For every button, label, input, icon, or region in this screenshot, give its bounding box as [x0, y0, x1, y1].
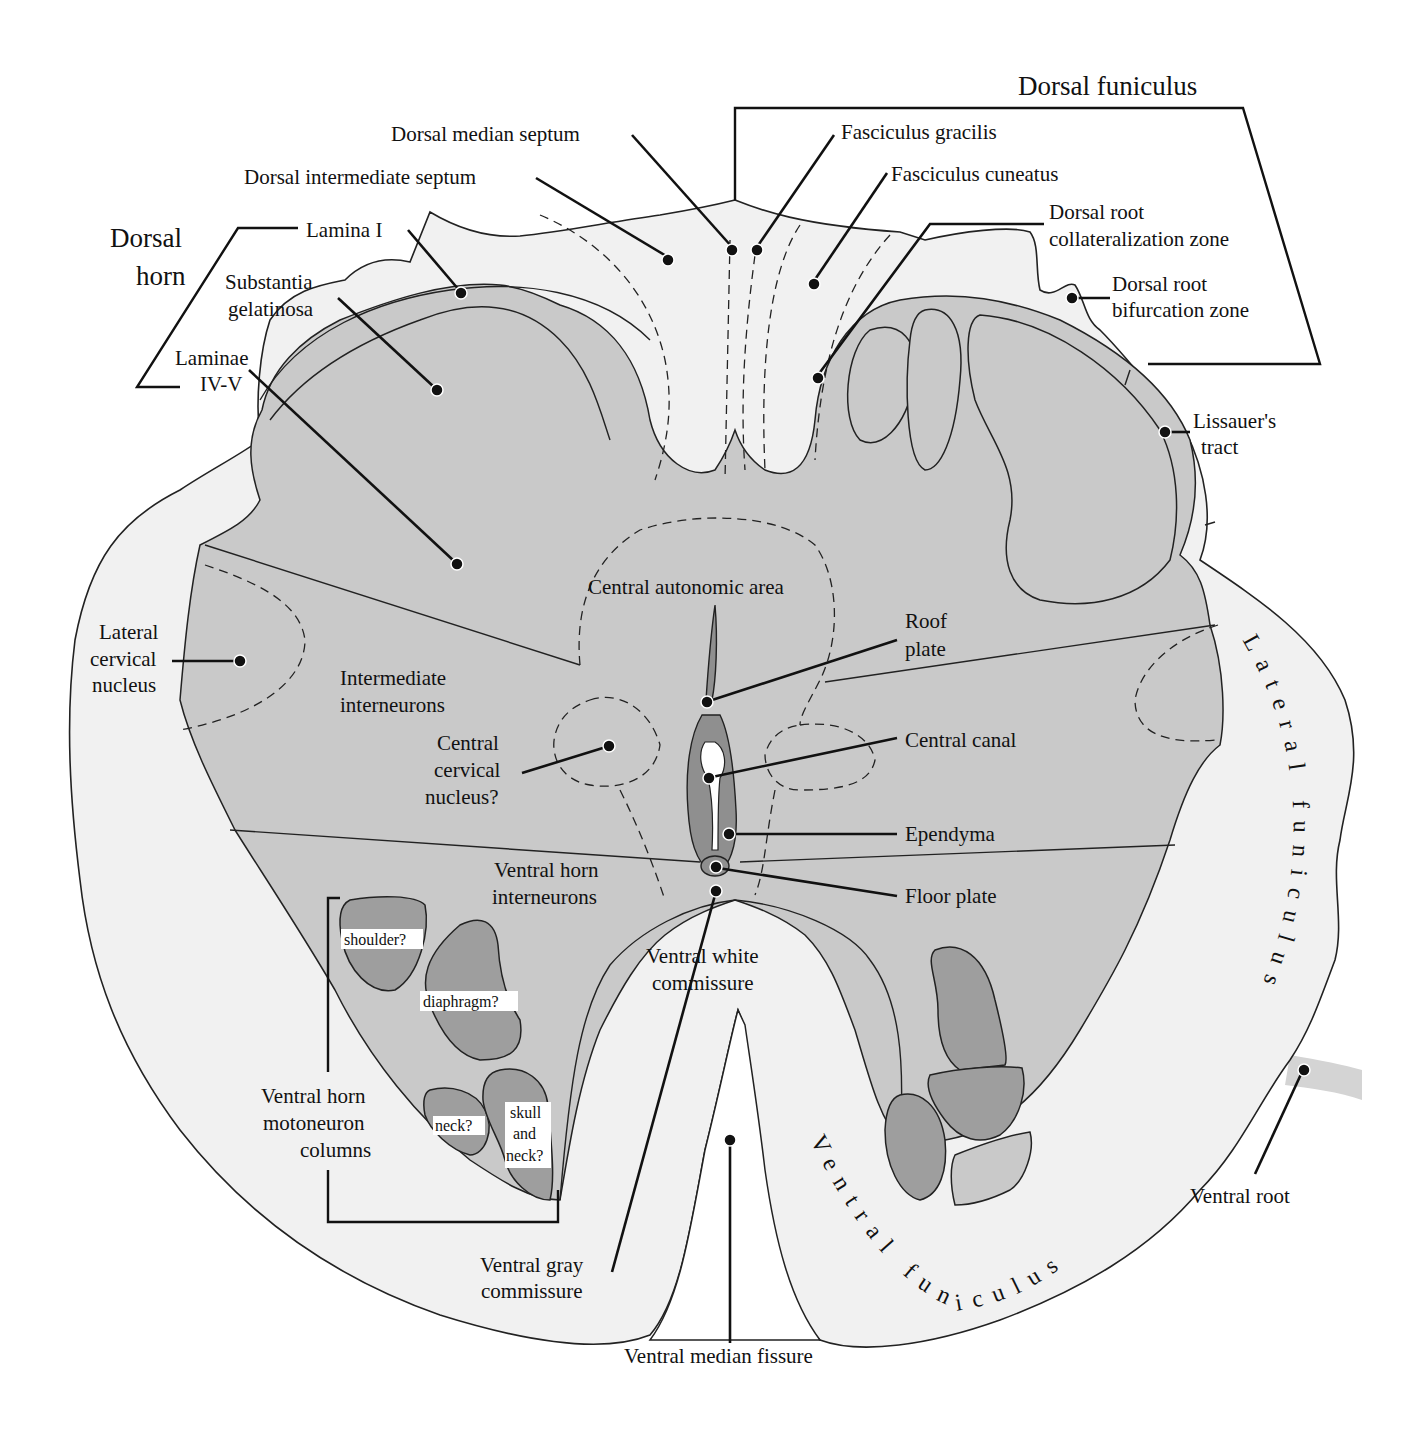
central-cervical-nucleus-label-line1: Central: [437, 731, 499, 755]
ventral-horn-interneurons-label-line2: interneurons: [492, 885, 597, 909]
motoneuron-columns-label-line1: Ventral horn: [261, 1084, 366, 1108]
intermediate-interneurons-label-line2: interneurons: [340, 693, 445, 717]
substantia-gelatinosa-label-line1: Substantia: [225, 270, 313, 294]
fasciculus-gracilis-label: Fasciculus gracilis: [841, 120, 997, 144]
motoneuron-columns-label-line3: columns: [300, 1138, 371, 1162]
motor-column-skull-label-line3: neck?: [506, 1147, 543, 1164]
central-cervical-nucleus-label-line2: cervical: [434, 758, 501, 782]
dorsal-root-bifurcation-zone-label-line1: Dorsal root: [1112, 272, 1207, 296]
central-canal-label: Central canal: [905, 728, 1017, 752]
central-cervical-nucleus-label-line3: nucleus?: [425, 785, 498, 809]
lateral-cervical-nucleus-label-line2: cervical: [90, 647, 157, 671]
ventral-root-fiber: [1285, 1055, 1362, 1100]
motor-column-neck-label: neck?: [435, 1117, 472, 1134]
dorsal-intermediate-septum-label: Dorsal intermediate septum: [244, 165, 476, 189]
ventral-white-commissure-label-line1: Ventral white: [646, 944, 759, 968]
ventral-gray-commissure-label-line1: Ventral gray: [480, 1253, 584, 1277]
dorsal-horn-label-line2: horn: [136, 261, 186, 291]
lissauers-tract-label-line1: Lissauer's: [1193, 409, 1276, 433]
roof-plate-label-line1: Roof: [905, 609, 947, 633]
dorsal-root-collateralization-zone-label-line2: collateralization zone: [1049, 227, 1229, 251]
lateral-cervical-nucleus-label-line3: nucleus: [92, 673, 156, 697]
intermediate-interneurons-label-line1: Intermediate: [340, 666, 446, 690]
motoneuron-columns-label-line2: motoneuron: [263, 1111, 365, 1135]
dorsal-horn-label-line1: Dorsal: [110, 223, 182, 253]
dorsal-funiculus-label: Dorsal funiculus: [1018, 71, 1197, 101]
floor-plate-label: Floor plate: [905, 884, 997, 908]
motor-column-diaphragm-label: diaphragm?: [423, 993, 499, 1011]
ventral-median-fissure-label: Ventral median fissure: [624, 1344, 813, 1368]
substantia-gelatinosa-label-line2: gelatinosa: [228, 297, 314, 321]
ventral-white-commissure-label-line2: commissure: [652, 971, 753, 995]
central-autonomic-area-label: Central autonomic area: [588, 575, 785, 599]
fasciculus-cuneatus-label: Fasciculus cuneatus: [891, 162, 1058, 186]
ventral-gray-commissure-label-line2: commissure: [481, 1279, 582, 1303]
motor-column-skull-label-line2: and: [513, 1125, 536, 1142]
spinal-cord-diagram: Dorsal funiculus Dorsal horn Dorsal medi…: [0, 0, 1425, 1442]
lissauers-tract-label-line2: tract: [1201, 435, 1238, 459]
ventral-root-label: Ventral root: [1190, 1184, 1290, 1208]
dorsal-median-septum-label: Dorsal median septum: [391, 122, 580, 146]
dorsal-root-bifurcation-zone-label-line2: bifurcation zone: [1112, 298, 1249, 322]
ventral-horn-interneurons-label-line1: Ventral horn: [494, 858, 599, 882]
roof-plate-label-line2: plate: [905, 637, 946, 661]
leader-dorsal-root-bifurcation-zone: [1066, 292, 1110, 304]
motor-column-skull-label-line1: skull: [510, 1104, 542, 1121]
laminae-iv-v-label-line1: Laminae: [175, 346, 248, 370]
motor-column-shoulder-label: shoulder?: [344, 931, 406, 948]
dorsal-root-collateralization-zone-label-line1: Dorsal root: [1049, 200, 1144, 224]
ependyma-label: Ependyma: [905, 822, 995, 846]
diagram-canvas: Dorsal funiculus Dorsal horn Dorsal medi…: [0, 0, 1425, 1442]
lateral-cervical-nucleus-label-line1: Lateral: [99, 620, 159, 644]
lamina-i-label: Lamina I: [306, 218, 382, 242]
laminae-iv-v-label-line2: IV-V: [200, 372, 242, 396]
